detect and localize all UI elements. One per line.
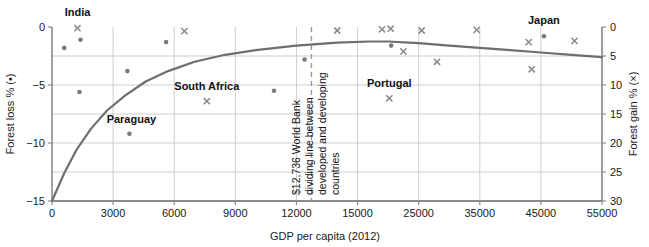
forest-loss-point xyxy=(542,34,547,39)
world-bank-annotation-line: $12,736 World Bank xyxy=(290,99,302,195)
y-tick-label-right: 5 xyxy=(610,50,616,62)
forest-loss-point xyxy=(127,131,132,136)
x-tick-label: 25000 xyxy=(403,207,434,219)
y-tick-label-left: 0 xyxy=(39,21,45,33)
world-bank-annotation-line: developed and developing xyxy=(316,72,328,195)
forest-loss-point xyxy=(302,57,307,62)
x-tick-label: 55000 xyxy=(587,207,618,219)
forest-loss-gain-scatter-chart: 0300060009000120001500025000350004500055… xyxy=(0,0,649,247)
point-label: Paraguay xyxy=(107,113,157,125)
forest-loss-point xyxy=(164,40,169,45)
x-tick-label: 3000 xyxy=(101,207,125,219)
y-tick-label-right: 15 xyxy=(610,108,622,120)
x-tick-label: 35000 xyxy=(464,207,495,219)
point-label: India xyxy=(65,6,92,18)
x-tick-label: 0 xyxy=(49,207,55,219)
point-label: Japan xyxy=(528,14,560,26)
x-tick-label: 45000 xyxy=(526,207,557,219)
x-tick-label: 9000 xyxy=(223,207,247,219)
x-tick-label: 15000 xyxy=(342,207,373,219)
point-label: South Africa xyxy=(174,80,240,92)
forest-loss-point xyxy=(272,89,277,94)
y-tick-label-right: 0 xyxy=(610,21,616,33)
y-tick-label-right: 20 xyxy=(610,137,622,149)
y-axis-left-title: Forest loss % (•) xyxy=(4,74,16,155)
forest-loss-point xyxy=(78,38,83,43)
world-bank-annotation-line: dividing line between xyxy=(303,97,315,195)
point-label: Portugal xyxy=(367,77,412,89)
x-axis-title: GDP per capita (2012) xyxy=(270,230,380,242)
forest-loss-point xyxy=(77,90,82,95)
y-tick-label-right: 25 xyxy=(610,166,622,178)
x-tick-label: 6000 xyxy=(162,207,186,219)
x-tick-label: 12000 xyxy=(281,207,312,219)
y-tick-label-right: 10 xyxy=(610,79,622,91)
y-tick-label-left: −10 xyxy=(26,137,45,149)
y-tick-label-left: −15 xyxy=(26,195,45,207)
forest-loss-point xyxy=(62,46,67,51)
world-bank-annotation-line: countries xyxy=(329,152,341,195)
forest-loss-point xyxy=(389,43,394,48)
y-tick-label-left: −5 xyxy=(32,79,45,91)
y-axis-right-title: Forest gain % (×) xyxy=(627,72,639,157)
chart-container: 0300060009000120001500025000350004500055… xyxy=(0,0,649,247)
y-tick-label-right: 30 xyxy=(610,195,622,207)
forest-loss-point xyxy=(125,69,130,74)
